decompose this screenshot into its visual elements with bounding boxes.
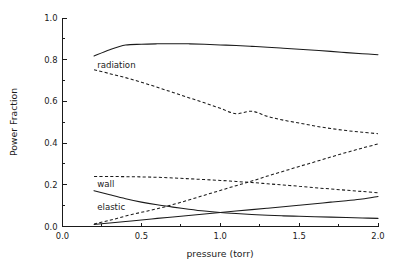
data-series-group [94, 44, 378, 225]
series-line-radiation [94, 44, 378, 56]
y-tick-label: 1.0 [44, 13, 57, 23]
y-axis-title: Power Fraction [8, 88, 19, 156]
y-tick-label: 0.8 [44, 55, 57, 65]
series-line-series-dashed-upper [94, 70, 378, 134]
chart-figure: 0.00.20.40.60.81.0 0.00.51.01.52.0 radia… [0, 0, 399, 267]
series-line-series-dashed-rising [94, 144, 378, 224]
series-annotation-wall: wall [97, 179, 114, 189]
y-axis-ticks: 0.00.20.40.60.81.0 [44, 13, 66, 232]
y-tick-label: 0.2 [44, 180, 57, 190]
x-tick-label: 1.5 [292, 231, 305, 241]
y-tick-label: 0.6 [44, 96, 57, 106]
x-tick-label: 2.0 [371, 231, 384, 241]
series-line-wall [94, 176, 378, 192]
x-tick-label: 0.5 [135, 231, 148, 241]
x-tick-label: 0.0 [56, 231, 69, 241]
x-axis-ticks: 0.00.51.01.52.0 [56, 223, 385, 241]
y-tick-label: 0.4 [44, 138, 57, 148]
series-line-elastic [94, 191, 378, 219]
series-annotations: radiationwallelastic [97, 60, 135, 212]
x-axis-title: pressure (torr) [186, 248, 253, 259]
series-annotation-radiation: radiation [97, 60, 135, 70]
x-tick-label: 1.0 [214, 231, 227, 241]
series-annotation-elastic: elastic [97, 202, 125, 212]
power-fraction-line-chart: 0.00.20.40.60.81.0 0.00.51.01.52.0 radia… [0, 0, 399, 267]
